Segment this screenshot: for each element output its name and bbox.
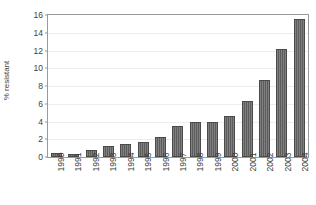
x-tick-slot: 1991 <box>64 159 81 205</box>
bar-slot <box>48 15 65 157</box>
y-tick-label: 16 <box>34 10 43 20</box>
bar[interactable] <box>294 19 305 157</box>
y-tick-label: 14 <box>34 28 43 38</box>
x-tick-label: 2004 <box>300 153 310 172</box>
bar[interactable] <box>242 101 253 157</box>
bar-slot <box>117 15 134 157</box>
x-tick-slot: 2002 <box>257 159 274 205</box>
y-tick-label: 4 <box>38 117 43 127</box>
bars-container <box>48 15 308 157</box>
bar-slot <box>273 15 290 157</box>
x-tick-slot: 2000 <box>222 159 239 205</box>
bar-slot <box>187 15 204 157</box>
x-tick-slot: 1992 <box>82 159 99 205</box>
bar-slot <box>100 15 117 157</box>
plot-area: 0246810121416 <box>47 14 309 158</box>
y-tick-label: 0 <box>38 152 43 162</box>
x-axis-ticks: 1990199119921993199419951996199719981999… <box>47 159 309 205</box>
bar-slot <box>152 15 169 157</box>
x-tick-slot: 1999 <box>204 159 221 205</box>
x-tick-slot: 1995 <box>134 159 151 205</box>
bar[interactable] <box>224 116 235 157</box>
bar[interactable] <box>259 80 270 157</box>
y-axis-title: % resistant <box>0 0 14 160</box>
y-tick-label: 10 <box>34 63 43 73</box>
bar-slot <box>204 15 221 157</box>
bar-slot <box>239 15 256 157</box>
x-tick-slot: 2003 <box>274 159 291 205</box>
y-tick-label: 2 <box>38 134 43 144</box>
bar-slot <box>135 15 152 157</box>
x-tick-slot: 2004 <box>292 159 309 205</box>
x-tick-slot: 2001 <box>239 159 256 205</box>
bar-slot <box>256 15 273 157</box>
x-tick-slot: 1994 <box>117 159 134 205</box>
y-tick-label: 12 <box>34 46 43 56</box>
y-tick-label: 6 <box>38 99 43 109</box>
bar-slot <box>65 15 82 157</box>
bar-chart-figure: % resistant 0246810121416 19901991199219… <box>0 0 316 205</box>
bar-slot <box>83 15 100 157</box>
bar[interactable] <box>276 49 287 157</box>
bar-slot <box>291 15 308 157</box>
y-axis-title-label: % resistant <box>3 60 12 100</box>
x-tick-slot: 1993 <box>99 159 116 205</box>
x-tick-slot: 1996 <box>152 159 169 205</box>
x-tick-slot: 1998 <box>187 159 204 205</box>
x-tick-slot: 1990 <box>47 159 64 205</box>
y-tick-label: 8 <box>38 81 43 91</box>
x-tick-slot: 1997 <box>169 159 186 205</box>
bar-slot <box>169 15 186 157</box>
bar-slot <box>221 15 238 157</box>
